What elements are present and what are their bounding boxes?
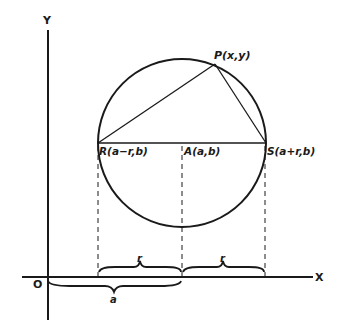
chord-rp [98,64,215,143]
point-r-label: R(a−r,b) [99,145,148,157]
origin-label: O [33,278,42,291]
circle-diagram: Y X O r r a P(x,y) R(a−r,b) A(a,b) S(a+r… [0,0,338,323]
brace-a [48,281,181,292]
brace-r-left-label: r [137,253,143,264]
point-s-label: S(a+r,b) [267,145,315,157]
x-axis-label: X [315,271,324,284]
brace-r-right-label: r [220,253,226,264]
point-a-label: A(a,b) [183,145,220,157]
y-axis-label: Y [42,14,52,27]
brace-a-label: a [110,294,117,305]
point-p-label: P(x,y) [214,49,251,62]
chord-ps [215,64,266,143]
